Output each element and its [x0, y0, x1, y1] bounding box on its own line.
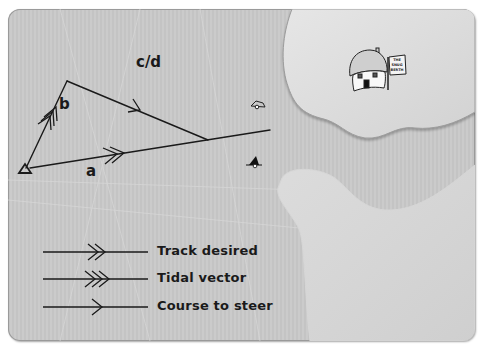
chart-panel: THE SNUG BERTH [8, 9, 475, 341]
buoy-icon [246, 156, 262, 168]
start-triangle-icon [19, 164, 31, 173]
track-desired-a [30, 130, 270, 168]
legend-lines [43, 244, 148, 315]
sign-line-3: BERTH [391, 68, 404, 72]
land-shoal [278, 165, 475, 341]
label-a: a [86, 162, 96, 180]
label-b: b [59, 95, 70, 113]
sign-line-2: SNUG [391, 63, 402, 67]
figure-caption-clipped [20, 346, 320, 352]
diagram-canvas: THE SNUG BERTH [8, 9, 475, 341]
triple-chevron-icon [38, 107, 57, 130]
legend-label-track: Track desired [157, 243, 258, 258]
legend-label-tidal: Tidal vector [157, 270, 246, 285]
background-lines [8, 9, 320, 341]
single-chevron-icon [128, 99, 140, 112]
label-cd: c/d [136, 53, 161, 71]
legend-label-course: Course to steer [157, 298, 273, 313]
sign-line-1: THE [393, 58, 401, 62]
boat-icon [251, 101, 265, 109]
